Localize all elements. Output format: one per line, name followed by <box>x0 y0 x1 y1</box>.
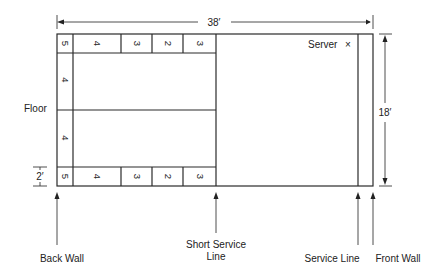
arrow-left-icon <box>57 20 64 25</box>
length-dimension: 38′ <box>57 15 373 29</box>
floor-label: Floor <box>24 103 47 114</box>
back-wall-label: Back Wall <box>40 253 84 264</box>
arrow-up-icon <box>371 192 376 199</box>
server-position-icon: × <box>345 39 351 50</box>
zone-value: 3 <box>195 41 206 46</box>
short-service-line-label: Short Service <box>186 239 246 250</box>
zone-value: 3 <box>132 174 143 179</box>
zone-value: 5 <box>60 174 71 179</box>
length-label: 38′ <box>208 17 221 28</box>
court-diagram: 38′ 5 4 3 2 3 4 4 5 4 3 2 3 Floor Server… <box>0 0 436 278</box>
short-service-line-pointer <box>214 192 219 233</box>
zone-value: 4 <box>60 135 71 140</box>
zone-value: 4 <box>92 174 103 179</box>
back-wall-pointer <box>55 192 60 245</box>
arrow-up-icon <box>383 35 388 42</box>
width-dimension: 18′ <box>379 34 393 186</box>
zone-value: 5 <box>60 41 71 46</box>
zone-value: 2 <box>163 174 174 179</box>
zone-depth-label: 2′ <box>36 171 44 182</box>
zone-value: 4 <box>92 41 103 46</box>
zone-value: 3 <box>195 174 206 179</box>
bottom-row-zones: 5 4 3 2 3 <box>57 167 216 186</box>
arrow-down-icon <box>383 178 388 185</box>
arrow-up-icon <box>214 192 219 199</box>
zone-value: 3 <box>132 41 143 46</box>
zone-value: 4 <box>60 77 71 82</box>
front-wall-pointer <box>371 192 376 245</box>
short-service-line-label-2: Line <box>207 251 226 262</box>
front-wall-label: Front Wall <box>375 253 420 264</box>
server-label: Server <box>308 39 338 50</box>
arrow-up-icon <box>356 192 361 199</box>
service-line-pointer <box>356 192 361 245</box>
width-label: 18′ <box>379 107 392 118</box>
arrow-up-icon <box>55 192 60 199</box>
zone-value: 2 <box>163 41 174 46</box>
service-line-label: Service Line <box>304 253 359 264</box>
zone-depth-dimension: 2′ <box>33 167 47 186</box>
